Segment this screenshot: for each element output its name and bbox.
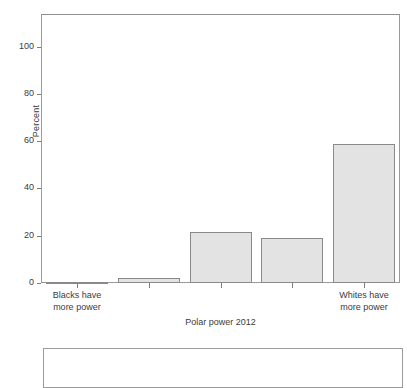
x-tick-mark — [221, 283, 222, 288]
x-axis-category-label: Whites have more power — [309, 289, 407, 313]
y-tick-label: 0 — [29, 277, 34, 287]
x-tick-mark — [292, 283, 293, 288]
bottom-panel-frame — [43, 348, 403, 388]
x-axis-title: Polar power 2012 — [41, 317, 400, 327]
x-tick-mark — [364, 283, 365, 288]
y-tick-label: 40 — [24, 182, 34, 192]
y-tick-mark — [37, 188, 41, 189]
bar — [333, 144, 395, 283]
bar — [190, 232, 252, 283]
y-tick-label: 80 — [24, 88, 34, 98]
x-tick-mark — [77, 283, 78, 288]
bar — [261, 238, 323, 283]
y-tick-mark — [37, 283, 41, 284]
x-axis-category-label: Blacks have more power — [22, 289, 132, 313]
y-tick-mark — [37, 94, 41, 95]
y-axis-label: Percent — [31, 61, 41, 181]
y-tick-label: 60 — [24, 135, 34, 145]
y-tick-label: 20 — [24, 230, 34, 240]
y-tick-label: 100 — [19, 41, 34, 51]
y-tick-mark — [37, 47, 41, 48]
x-tick-mark — [149, 283, 150, 288]
y-tick-mark — [37, 236, 41, 237]
y-tick-mark — [37, 141, 41, 142]
